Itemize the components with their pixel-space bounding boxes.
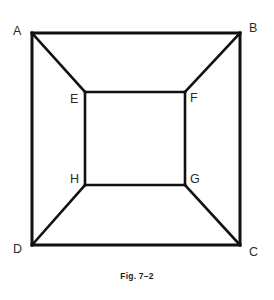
vertex-label-f: F bbox=[190, 92, 198, 105]
vertex-label-d: D bbox=[13, 243, 22, 256]
figure-caption: Fig. 7–2 bbox=[0, 271, 274, 281]
vertex-label-b: B bbox=[249, 22, 258, 35]
vertex-label-a: A bbox=[13, 25, 22, 38]
vertex-label-h: H bbox=[70, 173, 79, 186]
vertex-label-e: E bbox=[70, 93, 79, 106]
geometry-diagram bbox=[0, 0, 274, 300]
figure-container: A B C D E F G H Fig. 7–2 bbox=[0, 0, 274, 300]
vertex-label-c: C bbox=[249, 246, 258, 259]
vertex-label-g: G bbox=[190, 173, 200, 186]
